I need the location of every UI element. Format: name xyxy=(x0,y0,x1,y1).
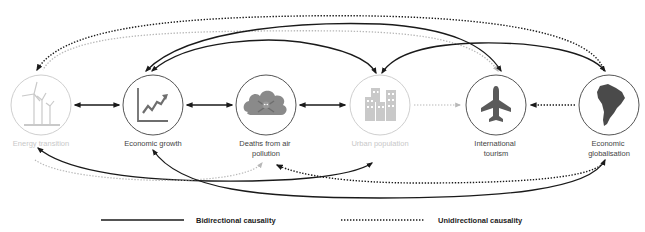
edge-globalisation-deaths xyxy=(277,163,603,183)
node-economic-growth: Economic growth xyxy=(123,75,183,148)
bottom-arcs xyxy=(35,148,605,198)
node-deaths-from-air-pollution: Deaths from air pollution xyxy=(236,75,296,158)
causality-diagram: Energy transition Economic growth Deaths… xyxy=(0,0,645,232)
edge-growth-tourism xyxy=(146,24,501,71)
node-international-tourism: International tourism xyxy=(466,75,526,158)
top-arcs xyxy=(37,16,605,73)
edge-growth-globalisation xyxy=(153,150,605,198)
node-label: Energy transition xyxy=(13,139,69,148)
node-label: Urban population xyxy=(351,139,408,148)
edge-urban-globalisation xyxy=(382,43,605,73)
node-energy-transition: Energy transition xyxy=(11,75,71,148)
node-label: Economic globalisation xyxy=(588,139,630,158)
edge-growth-urban xyxy=(152,40,376,73)
edge-tourism-energy xyxy=(43,31,498,71)
node-label: International tourism xyxy=(474,139,517,158)
legend-bidirectional-label: Bidirectional causality xyxy=(196,216,276,225)
edge-energy-urban xyxy=(38,148,372,181)
node-label: Economic growth xyxy=(124,139,182,148)
node-economic-globalisation: Economic globalisation xyxy=(579,75,639,158)
legend: Bidirectional causality Unidirectional c… xyxy=(101,216,523,225)
node-label: Deaths from air pollution xyxy=(239,139,292,158)
node-urban-population: Urban population xyxy=(350,75,410,148)
edge-energy-deaths xyxy=(35,160,262,180)
legend-unidirectional-label: Unidirectional causality xyxy=(438,216,523,225)
